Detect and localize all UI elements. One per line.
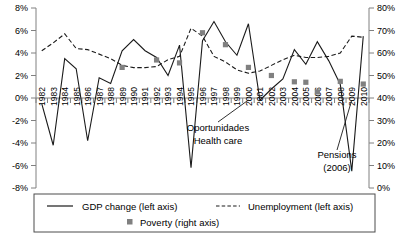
right-axis-tick-label: 10%: [377, 161, 395, 171]
left-axis-tick-label: 2%: [15, 71, 28, 81]
legend-label-poverty: Poverty (right axis): [140, 217, 219, 228]
annotation-leader-line: [337, 100, 352, 150]
x-axis-tick-label: 1997: [209, 87, 219, 106]
x-axis-tick-label: 1993: [163, 87, 173, 106]
poverty-marker: [246, 65, 251, 70]
right-axis-tick-label: 40%: [377, 93, 395, 103]
poverty-marker: [120, 65, 125, 70]
x-axis-tick-label: 1998: [221, 87, 231, 106]
x-axis-tick-label: 1992: [152, 87, 162, 106]
right-axis-tick-label: 0%: [377, 183, 390, 193]
left-axis-tick-label: -8%: [12, 183, 28, 193]
annotation-label-oportunidades: Oportunidades: [187, 122, 250, 133]
annotation-sublabel-pensions: (2006): [323, 162, 350, 173]
poverty-marker: [154, 57, 159, 62]
x-axis-tick-label: 1982: [37, 87, 47, 106]
poverty-marker: [269, 73, 274, 78]
poverty-marker: [292, 79, 297, 84]
poverty-marker: [177, 60, 182, 65]
x-axis-tick-label: 1991: [140, 87, 150, 106]
legend-marker-poverty-square: [127, 219, 133, 225]
x-axis-tick-label: 1988: [106, 87, 116, 106]
x-axis-tick-label: 2002: [267, 87, 277, 106]
right-axis-tick-label: 70%: [377, 26, 395, 36]
left-axis-tick-label: -2%: [12, 116, 28, 126]
poverty-marker: [303, 80, 308, 85]
left-axis-ticks: [31, 8, 36, 188]
x-axis-tick-label: 1995: [186, 87, 196, 106]
left-axis-tick-labels: -8%-6%-4%-2%0%2%4%6%8%: [12, 3, 28, 193]
legend-label-gdp: GDP change (left axis): [82, 201, 177, 212]
right-axis-tick-label: 20%: [377, 138, 395, 148]
left-axis-tick-label: 4%: [15, 48, 28, 58]
right-axis-tick-label: 30%: [377, 116, 395, 126]
right-axis-tick-label: 80%: [377, 3, 395, 13]
x-axis-tick-label: 2004: [290, 87, 300, 106]
poverty-marker: [223, 42, 228, 47]
right-axis: 0%10%20%30%40%50%60%70%80%: [369, 3, 395, 193]
x-axis-tick-label: 2009: [347, 87, 357, 106]
left-axis: -8%-6%-4%-2%0%2%4%6%8%: [12, 3, 36, 193]
x-axis-tick-label: 1990: [129, 87, 139, 106]
chart-container: -8%-6%-4%-2%0%2%4%6%8% 0%10%20%30%40%50%…: [0, 0, 409, 236]
left-axis-tick-label: 0%: [15, 93, 28, 103]
right-axis-ticks: [369, 8, 374, 188]
poverty-marker: [361, 81, 366, 86]
right-axis-tick-label: 50%: [377, 71, 395, 81]
chart-annotations: OportunidadesHealth carePensions(2006): [187, 100, 357, 173]
x-axis-tick-label: 1989: [118, 87, 128, 106]
x-axis-tick-label: 1983: [49, 87, 59, 106]
left-axis-tick-label: -6%: [12, 161, 28, 171]
legend: GDP change (left axis) Unemployment (lef…: [34, 194, 375, 232]
annotation-label-pensions: Pensions: [317, 149, 356, 160]
left-axis-tick-label: -4%: [12, 138, 28, 148]
x-axis-tick-label: 2010: [359, 87, 369, 106]
right-axis-tick-label: 60%: [377, 48, 395, 58]
annotation-sublabel-oportunidades: Health care: [194, 135, 243, 146]
left-axis-tick-label: 6%: [15, 26, 28, 36]
x-axis-tick-label: 2003: [278, 87, 288, 106]
right-axis-tick-labels: 0%10%20%30%40%50%60%70%80%: [377, 3, 395, 193]
left-axis-tick-label: 8%: [15, 3, 28, 13]
poverty-marker: [200, 30, 205, 35]
chart-svg: -8%-6%-4%-2%0%2%4%6%8% 0%10%20%30%40%50%…: [0, 0, 409, 236]
x-axis-tick-label: 2007: [324, 87, 334, 106]
x-axis-tick-label: 1999: [232, 87, 242, 106]
poverty-marker: [338, 79, 343, 84]
x-axis-tick-label: 1996: [198, 87, 208, 106]
legend-label-unemployment: Unemployment (left axis): [248, 201, 353, 212]
x-axis-tick-label: 2005: [301, 87, 311, 106]
x-axis-tick-label: 1984: [60, 87, 70, 106]
poverty-marker: [315, 89, 320, 94]
x-axis-tick-label: 1986: [83, 87, 93, 106]
x-axis-tick-label: 2000: [244, 87, 254, 106]
